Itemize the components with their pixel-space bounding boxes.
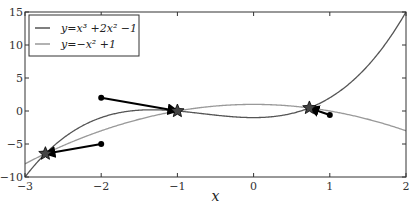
curve-parabola [25, 104, 406, 163]
legend: y=x³ +2x² −1y=−x² +1 [29, 15, 139, 56]
y-tick-label: 10 [9, 39, 23, 52]
y-tick-label: −10 [0, 171, 23, 184]
x-axis-label: x [212, 188, 220, 204]
plot-area: −3−2−1012−10−5051015xy=x³ +2x² −1y=−x² +… [0, 6, 410, 204]
legend-entry: y=−x² +1 [60, 38, 116, 51]
intersection-star-icon [171, 104, 184, 117]
intersection-star-icon [303, 101, 316, 114]
x-tick-label: 2 [403, 180, 410, 193]
arrow [101, 98, 177, 111]
y-tick-label: 15 [9, 6, 23, 19]
arrow-start-dot [327, 112, 333, 118]
x-tick-label: −1 [169, 180, 185, 193]
x-tick-label: 1 [326, 180, 333, 193]
y-tick-label: −5 [7, 138, 23, 151]
x-tick-label: 0 [250, 180, 257, 193]
arrow-start-dot [98, 95, 104, 101]
y-tick-label: 0 [16, 105, 23, 118]
y-tick-label: 5 [16, 72, 23, 85]
arrow-start-dot [98, 141, 104, 147]
x-tick-label: −2 [93, 180, 109, 193]
chart: −3−2−1012−10−5051015xy=x³ +2x² −1y=−x² +… [0, 0, 414, 208]
legend-entry: y=x³ +2x² −1 [60, 22, 137, 35]
